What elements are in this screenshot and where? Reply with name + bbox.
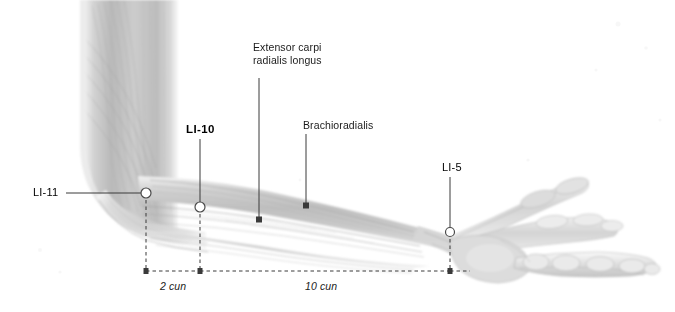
label-brachioradialis: Brachioradialis [303, 119, 373, 132]
forearm-illustration [0, 0, 675, 312]
label-measurement-10-cun: 10 cun [305, 280, 337, 292]
label-acupoint-li-10: LI-10 [186, 123, 215, 136]
acupoint-marker-li-10 [195, 202, 205, 212]
label-extensor-carpi-radialis-longus: Extensor carpi radialis longus [253, 41, 322, 66]
label-acupoint-li-11: LI-11 [33, 186, 58, 199]
hand-group [450, 175, 660, 283]
label-acupoint-li-5: LI-5 [442, 161, 462, 174]
anatomy-figure: Extensor carpi radialis longus Brachiora… [0, 0, 675, 312]
acupoint-marker-li-5 [446, 228, 455, 237]
label-measurement-2-cun: 2 cun [160, 280, 186, 292]
forearm-group [138, 176, 462, 273]
acupoint-marker-li-11 [141, 188, 151, 198]
